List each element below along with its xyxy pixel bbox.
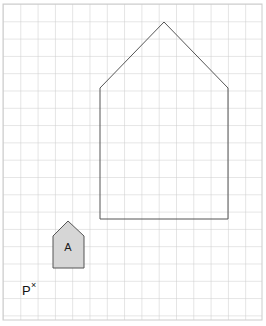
- geometry-figure: A P ×: [0, 0, 266, 326]
- point-p-cross-icon: ×: [31, 280, 36, 290]
- figure-canvas: A P ×: [0, 0, 266, 326]
- shape-label-a: A: [64, 241, 72, 253]
- point-p-letter: P: [22, 283, 31, 298]
- square-grid: [3, 4, 262, 320]
